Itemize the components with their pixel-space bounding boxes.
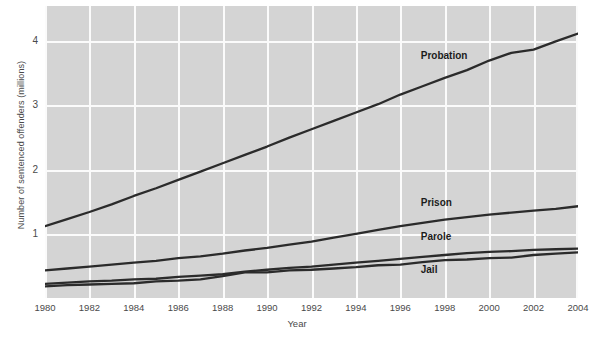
x-tick-label: 1990 [247,302,287,313]
x-tick-label: 2002 [514,302,554,313]
x-tick-label: 1996 [380,302,420,313]
x-tick-label: 1980 [25,302,65,313]
x-tick-label: 1988 [203,302,243,313]
series-label-parole: Parole [421,231,452,242]
x-tick-label: 1998 [425,302,465,313]
series-line-probation [45,34,578,227]
series-label-prison: Prison [421,197,452,208]
series-lines [45,6,578,298]
y-axis-title: Number of sentenced offenders (millions) [16,45,26,245]
series-line-parole [45,249,578,284]
x-tick-label: 1994 [336,302,376,313]
plot-area [45,6,578,298]
x-tick-label: 1984 [114,302,154,313]
x-tick-label: 1982 [69,302,109,313]
series-line-jail [45,252,578,286]
x-tick-label: 1992 [292,302,332,313]
x-tick-label: 2004 [558,302,594,313]
x-axis-title: Year [0,318,594,329]
line-chart: 1234 19801982198419861988199019921994199… [0,0,594,338]
x-tick-label: 2000 [469,302,509,313]
series-line-prison [45,206,578,270]
series-label-jail: Jail [421,264,438,275]
series-label-probation: Probation [421,50,468,61]
x-tick-label: 1986 [158,302,198,313]
